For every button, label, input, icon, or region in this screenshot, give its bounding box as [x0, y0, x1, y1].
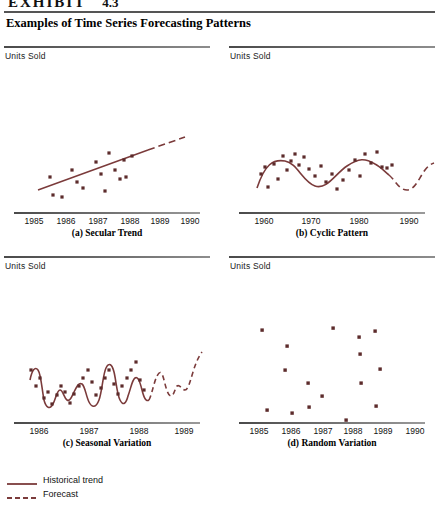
exhibit-page: EXHIBIT4.3 Examples of Time Series Forec… — [0, 0, 439, 510]
chart-panel-secular-trend: Units Sold — [4, 46, 210, 246]
x-tick: 1990 — [181, 216, 200, 226]
data-points-a — [48, 151, 133, 198]
x-tick: 1987 — [80, 426, 99, 436]
x-axis-d — [239, 422, 425, 424]
plot-area-d — [229, 274, 435, 422]
chart-panel-random-variation: Units Sold — [229, 256, 435, 456]
figure-legend: Historical trend Forecast — [6, 473, 166, 501]
trend-line-forecast-a — [148, 137, 185, 150]
x-tick: 1986 — [57, 216, 76, 226]
chart-panel-cyclic-pattern: Units Sold — [229, 46, 435, 246]
panel-divider — [4, 46, 210, 48]
chart-caption-a: (a) Secular Trend — [4, 228, 210, 238]
legend-item-forecast: Forecast — [6, 487, 166, 501]
chart-panel-seasonal-variation: Units Sold — [4, 256, 210, 456]
x-axis-b — [239, 212, 425, 214]
chart-caption-c: (c) Seasonal Variation — [4, 438, 210, 448]
legend-swatch-solid-line — [6, 475, 38, 485]
trend-curve-forecast-c — [149, 352, 202, 400]
chart-caption-d: (d) Random Variation — [229, 438, 435, 448]
x-tick: 1990 — [400, 216, 419, 226]
x-ticks-a: 1985 1986 1987 1988 1989 1990 — [4, 216, 210, 228]
x-tick: 1970 — [302, 216, 321, 226]
x-tick: 1986 — [282, 426, 301, 436]
legend-item-historical-trend: Historical trend — [6, 473, 166, 487]
x-tick: 1985 — [250, 426, 269, 436]
legend-label: Historical trend — [43, 475, 103, 485]
exhibit-number: 4.3 — [102, 0, 118, 10]
page-title: Examples of Time Series Forecasting Patt… — [6, 16, 251, 31]
plot-area-b — [229, 64, 435, 212]
x-ticks-b: 1960 1970 1980 1990 — [229, 216, 435, 228]
exhibit-kicker-text: EXHIBIT — [8, 0, 86, 10]
y-axis-label: Units Sold — [230, 51, 271, 61]
legend-swatch-dashed-line — [6, 489, 38, 499]
y-axis-label: Units Sold — [5, 261, 46, 271]
data-points-d — [260, 326, 381, 421]
plot-area-c — [4, 274, 210, 422]
x-tick: 1988 — [344, 426, 363, 436]
y-axis-label: Units Sold — [5, 51, 46, 61]
x-ticks-d: 1985 1986 1987 1988 1989 1990 — [229, 426, 435, 438]
chart-caption-b: (b) Cyclic Pattern — [229, 228, 435, 238]
x-tick: 1987 — [89, 216, 108, 226]
trend-curve-historical-b — [257, 160, 389, 188]
x-ticks-c: 1986 1987 1988 1989 — [4, 426, 210, 438]
x-axis-c — [14, 422, 200, 424]
x-tick: 1987 — [314, 426, 333, 436]
legend-label: Forecast — [43, 489, 78, 499]
scatter-svg-d — [229, 274, 435, 422]
x-tick: 1989 — [374, 426, 393, 436]
plot-area-a — [4, 64, 210, 212]
panel-divider — [229, 256, 435, 258]
scatter-svg-a — [4, 64, 210, 212]
x-tick: 1986 — [30, 426, 49, 436]
x-tick: 1989 — [151, 216, 170, 226]
x-tick: 1985 — [25, 216, 44, 226]
x-tick: 1980 — [350, 216, 369, 226]
scatter-svg-b — [229, 64, 435, 212]
scatter-svg-c — [4, 274, 210, 422]
x-tick: 1989 — [175, 426, 194, 436]
x-tick: 1990 — [406, 426, 425, 436]
y-axis-label: Units Sold — [230, 261, 271, 271]
x-tick: 1988 — [130, 426, 149, 436]
exhibit-kicker: EXHIBIT4.3 — [8, 0, 118, 11]
panel-divider — [4, 256, 210, 258]
header-divider — [4, 11, 435, 13]
x-tick: 1960 — [255, 216, 274, 226]
trend-curve-forecast-b — [389, 163, 434, 190]
panel-divider — [229, 46, 435, 48]
x-tick: 1988 — [121, 216, 140, 226]
x-axis-a — [14, 212, 200, 214]
